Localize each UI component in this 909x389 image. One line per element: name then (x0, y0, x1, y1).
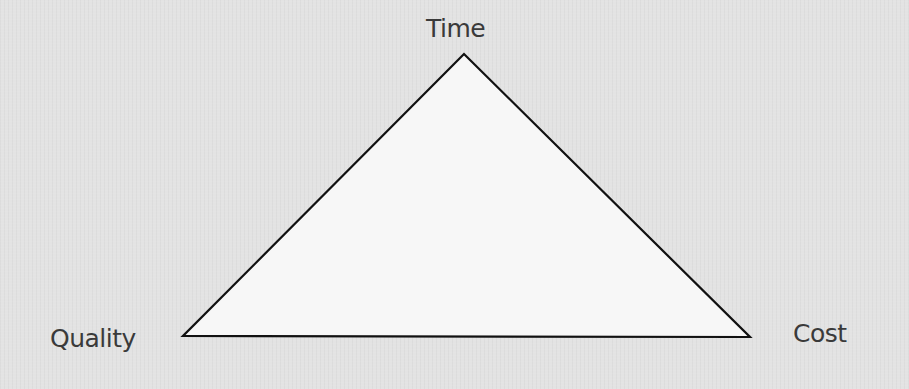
vertex-label-time: Time (426, 14, 485, 43)
triangle-diagram (0, 0, 909, 389)
vertex-label-quality: Quality (50, 324, 136, 353)
triangle-shape (183, 54, 750, 337)
vertex-label-cost: Cost (793, 319, 847, 348)
